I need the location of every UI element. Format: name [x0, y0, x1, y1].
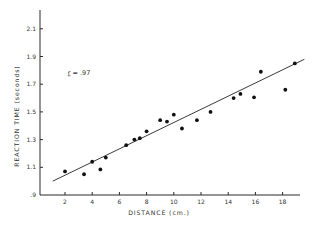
regression-line — [53, 59, 305, 181]
y-tick-label: 1.3 — [26, 136, 36, 143]
data-point — [283, 88, 287, 92]
data-point — [195, 118, 199, 122]
data-point — [180, 127, 184, 131]
data-point — [172, 113, 176, 117]
data-point — [252, 95, 256, 99]
x-tick-label: 8 — [145, 198, 149, 205]
data-point — [293, 62, 297, 66]
data-point — [158, 118, 162, 122]
data-point — [232, 96, 236, 100]
data-point — [209, 110, 213, 114]
data-point — [165, 120, 169, 124]
data-point — [63, 170, 67, 174]
x-tick-label: 18 — [279, 198, 287, 205]
data-point — [98, 167, 102, 171]
x-tick-label: 6 — [117, 198, 121, 205]
x-axis: 24681012141618 DISTANCE (cm.) — [40, 192, 300, 216]
x-tick-label: 4 — [90, 198, 94, 205]
data-point — [138, 136, 142, 140]
y-tick-label: 1.5 — [26, 108, 36, 115]
data-point — [124, 143, 128, 147]
data-point — [82, 172, 86, 176]
data-point — [104, 156, 108, 160]
x-tick-label: 16 — [252, 198, 260, 205]
data-point — [259, 70, 263, 74]
correlation-annotation: r = .97 — [68, 69, 91, 77]
data-point — [145, 129, 149, 133]
data-point — [239, 92, 243, 96]
x-axis-title: DISTANCE (cm.) — [128, 209, 190, 216]
y-tick-label: 1.1 — [26, 163, 36, 170]
y-axis: .91.11.31.51.71.92.1 REACTION TIME (seco… — [13, 10, 43, 198]
y-tick-label: 1.7 — [26, 80, 36, 87]
x-tick-label: 14 — [224, 198, 232, 205]
data-point — [132, 138, 136, 142]
correlation-value: = .97 — [70, 69, 90, 77]
x-axis-ticks: 24681012141618 — [63, 192, 287, 205]
y-tick-label: 2.1 — [26, 25, 36, 32]
data-point — [90, 160, 94, 164]
y-axis-ticks: .91.11.31.51.71.92.1 — [26, 25, 43, 198]
y-tick-label: 1.9 — [26, 53, 36, 60]
y-axis-title: REACTION TIME (seconds) — [13, 65, 20, 166]
scatter-chart: .91.11.31.51.71.92.1 REACTION TIME (seco… — [0, 0, 320, 229]
x-tick-label: 10 — [170, 198, 178, 205]
x-tick-label: 2 — [63, 198, 67, 205]
x-tick-label: 12 — [197, 198, 205, 205]
y-tick-label: .9 — [30, 191, 36, 198]
